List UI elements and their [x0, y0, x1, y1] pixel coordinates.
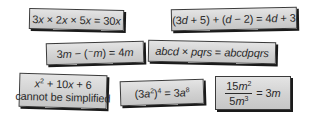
- card-expression: abcd × pqrs = abcdpqrs: [155, 45, 269, 59]
- fraction-denominator: 5m3: [229, 94, 248, 107]
- fraction: 15m2 5m3: [225, 80, 252, 107]
- card-expression: (3a2)4 = 3a8: [134, 86, 189, 100]
- math-card-divide-fraction: 15m2 5m3 = 3m: [215, 76, 291, 110]
- card-caption: cannot be simplified: [15, 90, 111, 106]
- math-card-subtract-negative: 3m − (⁻m) = 4m: [46, 41, 145, 66]
- math-card-power-of-power: (3a2)4 = 3a8: [120, 79, 205, 107]
- math-card-quadratic: x2 + 10x + 6 cannot be simplified: [19, 73, 108, 109]
- card-expression: 3x × 2x × 5x = 30x: [32, 13, 121, 27]
- card-expression: (3d + 5) + (d − 2) = 4d + 3: [172, 12, 296, 27]
- math-card-multiply-terms: 3x × 2x × 5x = 30x: [29, 8, 124, 31]
- card-expression: 15m2 5m3 = 3m: [225, 80, 280, 107]
- math-card-add-brackets: (3d + 5) + (d − 2) = 4d + 3: [171, 7, 297, 32]
- card-expression: 3m − (⁻m) = 4m: [56, 45, 133, 60]
- fraction-result: = 3m: [256, 87, 280, 99]
- fraction-numerator: 15m2: [225, 80, 252, 94]
- math-card-multiply-letters: abcd × pqrs = abcdpqrs: [148, 40, 276, 65]
